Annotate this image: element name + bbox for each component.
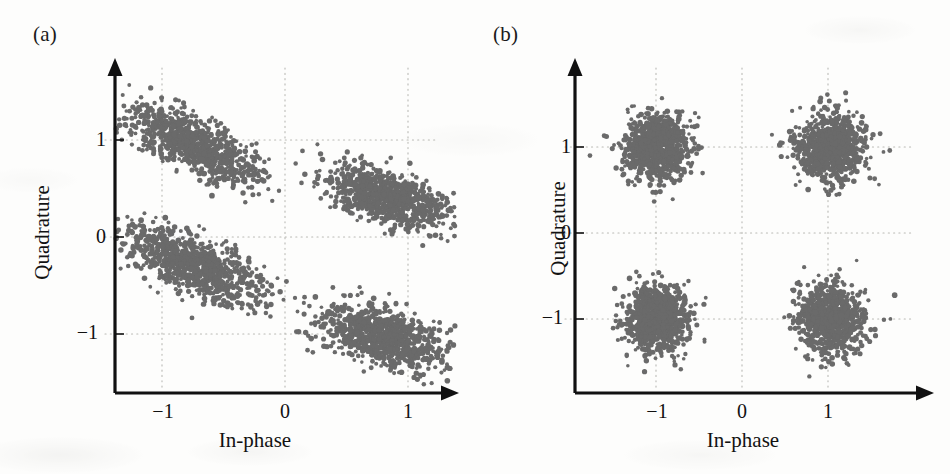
panel-a-xaxis-title: In-phase: [175, 428, 335, 453]
panel-b-xtick-1: 1: [811, 400, 845, 423]
panel-b: (b) 1 0 −1 −1 0 1 In-phase Quadrature: [475, 0, 950, 474]
panel-a-yaxis-title: Quadrature: [30, 158, 55, 308]
panel-a-xtick-0: 0: [268, 400, 302, 423]
panel-a-ytick-1: 1: [72, 128, 106, 151]
panel-b-xtick-m1: −1: [640, 400, 674, 423]
panel-b-ytick-m1: −1: [529, 306, 563, 329]
panel-b-yaxis-title: Quadrature: [546, 154, 571, 304]
scatter-points: [114, 83, 458, 387]
panel-a-ytick-0: 0: [72, 225, 106, 248]
panel-a-xtick-m1: −1: [146, 400, 180, 423]
panel-b-xtick-0: 0: [725, 400, 759, 423]
scatter-points: [588, 90, 898, 378]
panel-a-ytick-m1: −1: [64, 321, 98, 344]
panel-a-xtick-1: 1: [391, 400, 425, 423]
panel-b-xaxis-title: In-phase: [663, 428, 823, 453]
axes: [568, 58, 935, 401]
panel-a: (a) 1 0 −1 −1 0 1 In-phase Quadrature: [0, 0, 475, 474]
